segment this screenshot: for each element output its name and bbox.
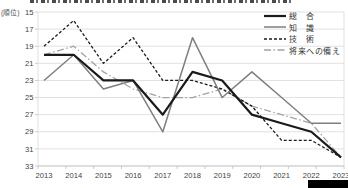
y-axis-unit-label: (順位) [1,8,20,17]
y-axis-label: 31 [25,145,33,154]
y-axis-label: 15 [25,8,33,17]
x-axis-label: 2014 [65,171,82,180]
y-axis-label: 29 [25,127,33,136]
legend-line-overall [264,12,286,20]
x-axis-label: 2019 [214,171,231,180]
x-axis-label: 2022 [303,171,320,180]
x-axis-label: 2015 [95,171,112,180]
x-axis-label: 2021 [273,171,290,180]
x-axis-label: 2013 [36,171,53,180]
y-axis-label: 33 [25,162,33,171]
legend-item-overall: 総 合 [264,10,340,22]
legend-line-future-readiness [264,46,286,54]
y-axis-label: 21 [25,59,33,68]
chart-legend: 総 合知 識技 術将来への備え [264,10,340,56]
legend-item-knowledge: 知 識 [264,22,340,34]
x-axis-label: 2020 [243,171,260,180]
y-axis-label: 27 [25,110,33,119]
x-axis-label: 2017 [154,171,171,180]
legend-item-technology: 技 術 [264,33,340,45]
legend-item-future-readiness: 将来への備え [264,45,340,57]
y-axis-label: 17 [25,25,33,34]
legend-label: 知 識 [289,22,315,33]
x-axis-label: 2018 [184,171,201,180]
figure: (順位) 15171921232527293133201320142015201… [0,0,348,188]
x-axis-label: 2023 [333,171,348,180]
series-line-overall [44,55,341,158]
legend-label: 技 術 [289,33,315,44]
legend-line-technology [264,35,286,43]
legend-label: 将来への備え [289,45,340,56]
x-axis-label: 2016 [125,171,142,180]
y-axis-label: 19 [25,42,33,51]
y-axis-label: 23 [25,76,33,85]
legend-label: 総 合 [289,10,315,21]
highlight-bar [308,180,348,188]
y-axis-label: 25 [25,93,33,102]
legend-line-knowledge [264,23,286,31]
